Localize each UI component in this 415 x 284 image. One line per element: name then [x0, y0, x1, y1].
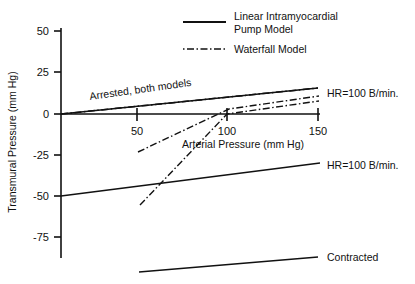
annotation-hr-waterfall: HR=100 B/min.: [327, 87, 399, 99]
y-tick-label-minus-75: -75: [33, 231, 49, 243]
annotation-contracted: Contracted: [327, 251, 379, 263]
y-tick-label-25: 25: [37, 66, 49, 78]
legend-label-linear-line1: Linear Intramyocardial: [234, 10, 338, 22]
legend-label-waterfall: Waterfall Model: [234, 43, 307, 55]
legend: Linear Intramyocardial Pump Model Waterf…: [183, 10, 338, 55]
chart-svg: 50 25 0 -25 -50 -75 50 100 150 Arterial …: [0, 0, 415, 284]
annotation-hr-linear: HR=100 B/min.: [327, 159, 399, 171]
series-linear-pump-hr100: [61, 163, 320, 196]
y-tick-label-50: 50: [37, 25, 49, 37]
y-tick-label-minus-50: -50: [33, 190, 49, 202]
series-waterfall-lower: [140, 101, 319, 205]
data-series-group: [61, 88, 320, 272]
y-tick-label-0: 0: [43, 108, 49, 120]
annotation-arrested: Arrested, both models: [89, 76, 192, 102]
x-tick-label-100: 100: [218, 125, 236, 137]
legend-label-linear-line2: Pump Model: [234, 23, 293, 35]
y-tick-label-minus-25: -25: [33, 149, 49, 161]
series-contracted: [139, 257, 318, 272]
x-tick-label-150: 150: [309, 125, 327, 137]
tick-label-group: 50 25 0 -25 -50 -75 50 100 150: [33, 25, 327, 243]
annotation-group: Arrested, both models HR=100 B/min. HR=1…: [89, 76, 399, 263]
chart-figure: 50 25 0 -25 -50 -75 50 100 150 Arterial …: [0, 0, 415, 284]
y-axis-title: Transmural Pressure (mm Hg): [6, 71, 18, 212]
x-axis-title: Arterial Pressure (mm Hg): [182, 138, 304, 150]
x-tick-label-50: 50: [131, 125, 143, 137]
